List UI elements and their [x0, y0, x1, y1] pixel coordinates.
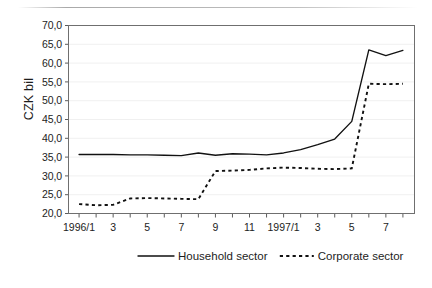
y-tick-label: 65,0 [42, 38, 62, 50]
y-tick-label: 60,0 [42, 57, 62, 69]
chart-canvas: 20,025,030,035,040,045,050,055,060,065,0… [0, 0, 432, 288]
y-tick-labels-group: 20,025,030,035,040,045,050,055,060,065,0… [42, 19, 62, 219]
y-tick-label: 40,0 [42, 132, 62, 144]
x-tick-label: 3 [315, 221, 321, 233]
x-tick-label: 3 [110, 221, 116, 233]
y-tick-label: 55,0 [42, 76, 62, 88]
y-tick-label: 45,0 [42, 113, 62, 125]
legend-label: Corporate sector [318, 250, 404, 262]
legend-label: Household sector [178, 250, 268, 262]
y-tick-label: 35,0 [42, 151, 62, 163]
x-tick-label: 5 [144, 221, 150, 233]
x-tick-marks-group [79, 214, 403, 218]
line-chart: 20,025,030,035,040,045,050,055,060,065,0… [0, 0, 432, 288]
x-tick-labels-group: 1996/13579111997/1357 [63, 221, 389, 233]
x-tick-label: 9 [213, 221, 219, 233]
x-tick-label: 11 [244, 221, 255, 233]
series-line-corporate-sector [79, 84, 403, 205]
y-tick-label: 25,0 [42, 188, 62, 200]
chart-legend: Household sectorCorporate sector [138, 250, 404, 262]
y-tick-label: 30,0 [42, 170, 62, 182]
y-tick-marks-group [65, 26, 69, 214]
x-tick-label: 1996/1 [63, 221, 95, 233]
series-line-household-sector [79, 50, 403, 156]
x-tick-label: 1997/1 [268, 221, 300, 233]
x-tick-label: 7 [383, 221, 389, 233]
x-tick-label: 5 [349, 221, 355, 233]
y-tick-label: 20,0 [42, 207, 62, 219]
y-tick-label: 70,0 [42, 19, 62, 31]
data-series-group [79, 50, 403, 205]
chart-root: CZK bil 20,025,030,035,040,045,050,055,0… [0, 0, 432, 288]
y-tick-label: 50,0 [42, 94, 62, 106]
x-tick-label: 7 [178, 221, 184, 233]
